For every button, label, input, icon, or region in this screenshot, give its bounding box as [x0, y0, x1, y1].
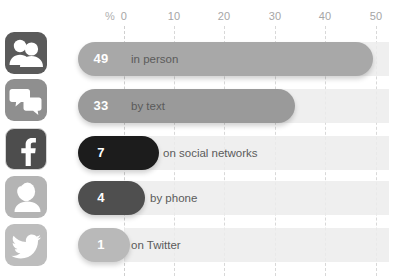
plot-area: % 0 10 20 30 40 50 49 in person 33 by te…	[0, 0, 395, 280]
tick-label-10: 10	[168, 10, 181, 22]
tick-label-40: 40	[319, 10, 332, 22]
bar-value-in-person: 49	[78, 42, 124, 76]
tick-label-50: 50	[370, 10, 383, 22]
bar-value-by-text: 33	[78, 89, 124, 123]
tick-label-20: 20	[218, 10, 231, 22]
bar-value-on-social-networks: 7	[78, 136, 124, 170]
tick-label-0: 0	[121, 10, 127, 22]
tick-label-30: 30	[269, 10, 282, 22]
bar-label-on-social-networks: on social networks	[163, 136, 258, 170]
bar-label-by-text: by text	[131, 89, 165, 123]
bar-label-in-person: in person	[131, 42, 178, 76]
bar-chart: % 0 10 20 30 40 50 49 in person 33 by te…	[0, 0, 395, 280]
bar-label-on-twitter: on Twitter	[131, 228, 181, 262]
bar-value-by-phone: 4	[78, 181, 124, 215]
axis-unit-label: %	[105, 10, 115, 22]
bar-value-on-twitter: 1	[78, 228, 124, 262]
bar-label-by-phone: by phone	[150, 181, 197, 215]
